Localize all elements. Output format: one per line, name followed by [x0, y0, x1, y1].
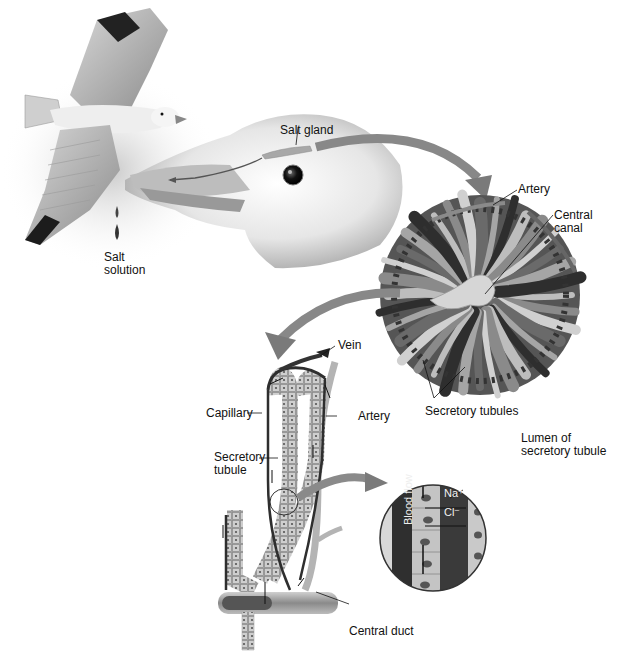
label-central-duct: Central duct: [349, 625, 414, 638]
diagram-artwork: [0, 0, 617, 668]
label-secretory-tubules: Secretory tubules: [425, 405, 518, 418]
label-secretory-tubule: Secretory tubule: [214, 451, 265, 477]
salt-gland-diagram: Salt gland Salt solution Artery Central …: [0, 0, 617, 668]
arrow-icon: [265, 332, 296, 360]
label-salt-gland: Salt gland: [280, 124, 333, 137]
label-lumen: Lumen of secretory tubule: [521, 432, 606, 458]
label-artery-top: Artery: [518, 183, 550, 196]
label-capillary: Capillary: [206, 407, 253, 420]
tubule-diagram: [218, 348, 342, 650]
label-salt-solution: Salt solution: [104, 251, 145, 277]
flying-gull: [0, 8, 220, 270]
label-artery-bottom: Artery: [358, 410, 390, 423]
label-cl: Cl⁻: [444, 506, 460, 519]
gland-cross-section: [380, 195, 581, 396]
label-vein: Vein: [338, 339, 361, 352]
label-na: Na⁺: [444, 487, 464, 500]
magnified-view: [378, 478, 488, 595]
arrow-icon: [365, 472, 388, 492]
label-central-canal: Central canal: [554, 209, 593, 235]
label-blood-flow: Blood flow: [402, 474, 415, 525]
